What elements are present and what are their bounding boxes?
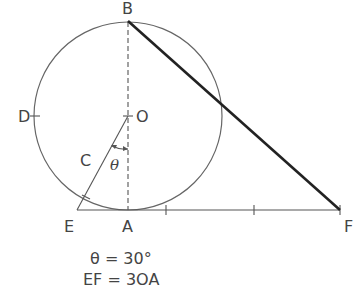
arrowhead-left <box>111 145 117 149</box>
label-B: B <box>122 0 133 18</box>
label-C: C <box>80 151 91 170</box>
caption-theta: θ = 30° <box>90 249 152 268</box>
caption-ef: EF = 3OA <box>83 270 159 289</box>
label-E: E <box>64 217 74 236</box>
line-BF <box>128 21 340 210</box>
label-theta: θ <box>110 156 119 174</box>
geometry-diagram: B O D C θ E A F θ = 30° EF = 3OA <box>0 0 357 300</box>
arrowhead-right <box>123 146 128 151</box>
label-D: D <box>18 107 30 126</box>
label-A: A <box>122 217 133 236</box>
label-F: F <box>344 217 353 236</box>
label-O: O <box>136 107 149 126</box>
